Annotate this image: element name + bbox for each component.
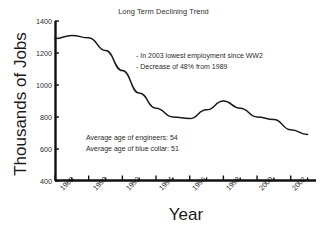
y-axis [55, 21, 59, 181]
plot-area [0, 0, 327, 231]
x-axis [55, 176, 316, 181]
data-series-line [55, 35, 308, 134]
chart-container: Long Term Declining Trend Thousands of J… [0, 0, 327, 231]
